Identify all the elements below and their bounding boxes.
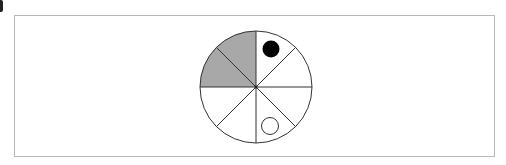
center-point [255,86,258,89]
open-circle-icon [262,118,279,135]
filled-dot-icon [263,41,280,58]
spinner-diagram [0,0,506,165]
